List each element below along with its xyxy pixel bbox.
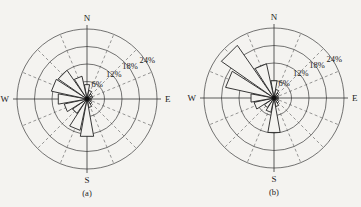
compass-label-n: N: [84, 13, 91, 23]
center-dot: [85, 97, 89, 101]
subfigure-caption: (a): [82, 188, 92, 198]
compass-label-e: E: [165, 94, 171, 104]
compass-label-e: E: [352, 93, 358, 103]
ring-label: 12%: [106, 69, 122, 79]
ring-label: 18%: [309, 60, 325, 70]
wind-rose-a: 6%12%18%24%NSWE(a): [1, 13, 172, 198]
wind-rose-b: 6%12%18%24%NSWE(b): [188, 12, 359, 197]
compass-label-w: W: [1, 94, 10, 104]
ring-label: 6%: [278, 78, 289, 88]
compass-label-w: W: [188, 93, 197, 103]
compass-label-s: S: [271, 174, 276, 184]
wind-rose-figure: 6%12%18%24%NSWE(a) 6%12%18%24%NSWE(b): [0, 0, 361, 207]
compass-label-n: N: [271, 12, 278, 22]
wind-rose-canvas: 6%12%18%24%NSWE(a) 6%12%18%24%NSWE(b): [0, 0, 361, 207]
compass-label-s: S: [84, 175, 89, 185]
ring-label: 12%: [293, 68, 309, 78]
ring-label: 24%: [140, 55, 156, 65]
ring-label: 24%: [327, 54, 343, 64]
subfigure-caption: (b): [269, 187, 279, 197]
ring-label: 6%: [91, 79, 102, 89]
ring-label: 18%: [122, 61, 138, 71]
center-dot: [272, 96, 276, 100]
